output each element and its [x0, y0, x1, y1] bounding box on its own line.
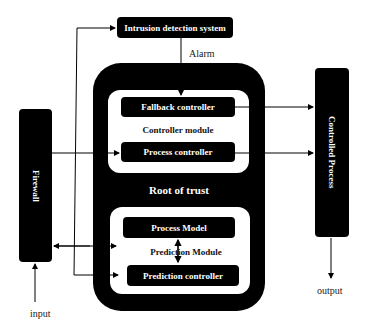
process-model-label: Process Model [151, 223, 207, 233]
process-controller-node: Process controller [121, 142, 235, 162]
firewall-node: Firewall [19, 109, 52, 262]
fallback-controller-node: Fallback controller [121, 97, 235, 117]
intrusion-detection-system-node: Intrusion detection system [117, 17, 233, 38]
process-controller-label: Process controller [144, 147, 213, 157]
fallback-controller-label: Fallback controller [141, 102, 215, 112]
controller-module-label: Controller module [143, 125, 214, 135]
output-label: output [317, 285, 343, 296]
prediction-module-label: Prediction Module [150, 247, 222, 257]
prediction-controller-label: Prediction controller [143, 271, 223, 281]
controlled-process-node: Controlled Process [315, 68, 349, 237]
prediction-controller-node: Prediction controller [127, 265, 239, 286]
alarm-label: Alarm [189, 48, 215, 59]
firewall-label: Firewall [31, 170, 41, 202]
process-model-node: Process Model [123, 217, 235, 238]
input-label: input [30, 308, 51, 319]
controlled-process-label: Controlled Process [327, 116, 337, 188]
root-of-trust-label: Root of trust [149, 184, 209, 196]
ids-label: Intrusion detection system [124, 23, 226, 33]
